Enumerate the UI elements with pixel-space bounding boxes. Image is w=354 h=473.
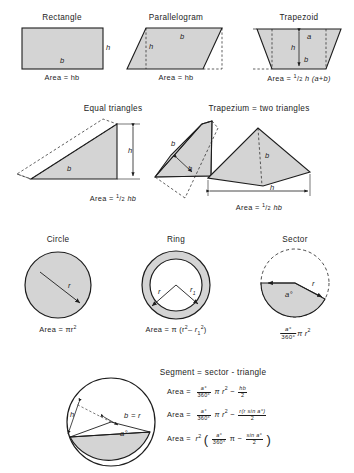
circle-label-r: r	[68, 282, 71, 290]
ring-label-r1: r1	[190, 286, 196, 296]
equal-triangles-half-den: 2	[122, 196, 125, 202]
sector-label-angle: a°	[285, 291, 293, 299]
equal-triangles-formula-suffix: hb	[127, 194, 136, 203]
trapezoid-half-num: 1	[293, 73, 296, 79]
segment-formula-3-open-paren: (	[204, 432, 209, 447]
trapezium-label-h: h	[270, 184, 275, 192]
ring-formula: Area = π (r2– r12)	[145, 325, 206, 336]
parallelogram-label-b: b	[180, 33, 185, 41]
trapezoid-label-h: h	[291, 44, 296, 52]
circle-formula-main: Area = πr	[39, 325, 73, 334]
equal-triangles-label-b-left: b	[67, 165, 72, 173]
equal-triangles-formula: Area = 1/2 hb	[90, 194, 136, 203]
trapezium-title: Trapezium = two triangles	[208, 105, 309, 113]
segment-formula-3-mid: π	[230, 434, 235, 443]
segment-formula-3: Area = r2 ( a°360° π − sin a°2 )	[167, 433, 271, 446]
ring-formula-main: Area = π (r	[145, 325, 184, 334]
parallelogram-formula: Area = hb	[159, 74, 194, 81]
sector-formula: a°360°π r2	[279, 326, 311, 340]
trapezoid-formula-prefix: Area =	[267, 74, 293, 83]
segment-formula-1-f2-den: 2	[238, 392, 247, 399]
segment-formula-2-f2-den: 2	[238, 415, 266, 422]
sector-frac-tail: π r	[297, 329, 307, 338]
equal-triangles-label-h-left: h	[128, 147, 133, 155]
equal-triangles-formula-prefix: Area =	[90, 194, 116, 203]
equal-triangles-title: Equal triangles	[84, 105, 143, 113]
trapezoid-label-a: a	[307, 33, 312, 41]
segment-formula-1-exp: 2	[225, 385, 228, 391]
segment-label-h: h	[70, 411, 75, 419]
segment-formula-3-minus: −	[238, 434, 243, 443]
segment-figure	[67, 378, 155, 466]
trapezium-formula-suffix: hb	[273, 203, 282, 212]
sector-figure	[261, 249, 329, 317]
segment-formula-1: Area = a°360° π r2 − hb2	[167, 386, 248, 398]
segment-formula-1-minus: −	[230, 387, 235, 396]
trapezium-half-den: 2	[268, 205, 271, 211]
circle-figure	[25, 252, 91, 318]
trapezoid-formula: Area = 1/2 h (a+b)	[267, 74, 330, 83]
trapezoid-figure	[253, 29, 341, 69]
segment-formula-1-lead: Area =	[167, 387, 191, 396]
sector-title: Sector	[282, 236, 307, 244]
segment-label-angle: a°	[120, 430, 128, 438]
sector-frac-num: a°	[280, 326, 296, 332]
segment-formula-3-lead: Area =	[167, 434, 191, 443]
segment-formula-1-f1-num: a°	[197, 386, 212, 392]
rectangle-label-b: b	[60, 57, 65, 65]
circle-title: Circle	[47, 236, 70, 244]
segment-formula-2: Area = a°360° π r2 − r(r sin a°)2	[167, 409, 267, 421]
sector-frac-den: 360°	[280, 333, 296, 340]
segment-formula-2-lead: Area =	[167, 410, 191, 419]
equal-triangles-label-h-right: h	[188, 165, 193, 173]
segment-formula-3-close-paren: )	[266, 432, 271, 447]
segment-formula-3-f1-den: 360°	[212, 439, 227, 446]
trapezium-formula: Area = 1/2 hb	[236, 203, 282, 212]
segment-formula-2-exp: 2	[225, 408, 228, 414]
rectangle-title: Rectangle	[42, 14, 82, 22]
parallelogram-figure	[127, 28, 222, 69]
sector-label-r: r	[312, 280, 315, 288]
trapezium-formula-prefix: Area =	[236, 203, 262, 212]
circle-formula: Area = πr2	[39, 325, 76, 334]
geometry-area-formula-sheet: Rectangle h b Area = hb Parallelogram h …	[0, 0, 354, 473]
trapezoid-formula-suffix: h (a+b)	[305, 74, 331, 83]
ring-title: Ring	[167, 236, 185, 244]
circle-formula-exp: 2	[74, 324, 77, 330]
segment-formula-2-mid: π r	[214, 410, 224, 419]
segment-formula-3-f2-den: 2	[246, 439, 264, 446]
trapezoid-half-den: 2	[299, 76, 302, 82]
trapezoid-title: Trapezoid	[280, 14, 319, 22]
ring-figure	[142, 251, 210, 319]
ring-label-r: r	[158, 288, 161, 296]
sector-frac-exp: 2	[308, 327, 311, 333]
segment-formula-2-f2-num: r(r sin a°)	[238, 409, 266, 415]
segment-formula-2-f1-den: 360°	[197, 415, 212, 422]
segment-label-b: b = r	[124, 412, 141, 420]
equal-triangles-label-b-right: b	[171, 140, 176, 148]
segment-title: Segment = sector - triangle	[160, 369, 267, 377]
equal-triangle-left-figure	[17, 119, 140, 179]
rectangle-formula: Area = hb	[45, 74, 80, 81]
trapezoid-label-b: b	[304, 56, 309, 64]
trapezium-label-b: b	[265, 152, 270, 160]
equal-triangle-right-figure	[155, 121, 218, 198]
segment-formula-1-f2-num: hb	[238, 386, 247, 392]
parallelogram-title: Parallelogram	[149, 14, 203, 22]
segment-formula-1-mid: π r	[214, 387, 224, 396]
trapezium-figure	[208, 128, 310, 196]
segment-formula-2-minus: −	[230, 410, 235, 419]
segment-formula-3-f1-num: a°	[212, 433, 227, 439]
segment-formula-3-exp: 2	[198, 433, 201, 439]
parallelogram-label-h: h	[149, 43, 154, 51]
trapezium-half-num: 1	[262, 202, 265, 208]
segment-formula-1-f1-den: 360°	[197, 392, 212, 399]
segment-formula-2-f1-num: a°	[197, 409, 212, 415]
rectangle-label-h: h	[106, 44, 111, 52]
equal-triangles-half-num: 1	[116, 193, 119, 199]
segment-formula-3-f2-num: sin a°	[246, 433, 264, 439]
